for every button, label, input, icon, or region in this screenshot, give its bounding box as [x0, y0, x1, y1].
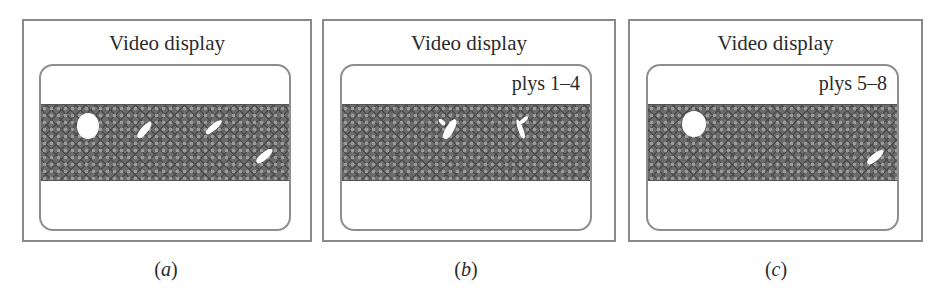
- scan-band: [648, 104, 897, 181]
- display-screen: plys 1–4: [340, 64, 592, 231]
- scan-band: [41, 104, 289, 181]
- caption-c: (c): [746, 258, 806, 281]
- caption-letter: a: [161, 258, 171, 280]
- streak-defect-branch: [438, 118, 446, 126]
- streak-defect: [204, 118, 223, 135]
- panel-title: Video display: [630, 31, 921, 56]
- ply-range-label: plys 1–4: [512, 72, 580, 95]
- streak-defect-branch: [519, 115, 529, 124]
- panel-title: Video display: [24, 31, 310, 56]
- ply-range-label: plys 5–8: [819, 72, 887, 95]
- streak-defect: [866, 148, 886, 166]
- scan-band: [342, 104, 590, 181]
- round-defect-spot: [77, 113, 99, 139]
- streak-defect: [255, 147, 275, 165]
- video-display-panel-a: Video display: [22, 19, 312, 242]
- caption-b: (b): [436, 258, 496, 281]
- display-screen: plys 5–8: [646, 64, 899, 231]
- panel-title: Video display: [324, 31, 614, 56]
- video-display-panel-c: Video display plys 5–8: [628, 19, 923, 242]
- video-display-panel-b: Video display plys 1–4: [322, 19, 616, 242]
- caption-letter: b: [461, 258, 471, 280]
- display-screen: [39, 64, 291, 231]
- caption-a: (a): [136, 258, 196, 281]
- round-defect-spot: [682, 111, 706, 137]
- streak-defect: [135, 120, 153, 140]
